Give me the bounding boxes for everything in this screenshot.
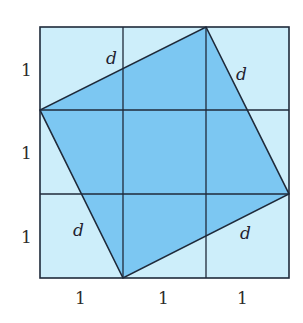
bottom-unit-label-2: 1 [158,288,169,308]
bottom-unit-label-1: 1 [75,288,86,308]
tilted-square-diagram: d d d d 1 1 1 1 1 1 [0,0,303,323]
left-unit-label-1: 1 [21,60,32,80]
left-unit-label-3: 1 [21,227,32,247]
side-label-d-top-right: d [236,64,247,84]
bottom-unit-label-3: 1 [237,288,248,308]
side-label-d-bottom-left: d [73,220,84,240]
left-unit-label-2: 1 [21,143,32,163]
side-label-d-top-left: d [106,48,117,68]
side-label-d-bottom-right: d [240,223,251,243]
